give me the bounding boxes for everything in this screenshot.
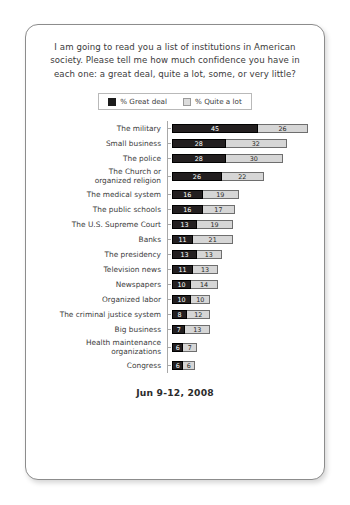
chart-row: The Church or organized religion2622: [32, 166, 324, 187]
axis-tick: [167, 158, 171, 159]
stacked-bar: 1010: [172, 295, 210, 305]
bar-segment-great-deal: 7: [172, 325, 185, 335]
bar-segment-quite-a-lot: 13: [185, 325, 210, 335]
chart-row: The medical system1619: [32, 187, 324, 202]
stacked-bar: 2830: [172, 154, 283, 164]
chart-row-label: The presidency: [32, 251, 167, 259]
chart-row-label: Organized labor: [32, 296, 167, 304]
stacked-bar: 67: [172, 343, 197, 353]
legend: % Great deal % Quite a lot: [98, 93, 252, 110]
chart-row-label: Health maintenance organizations: [32, 339, 167, 356]
chart-row: Newspapers1014: [32, 277, 324, 292]
stacked-bar: 66: [172, 361, 195, 371]
bar-segment-quite-a-lot: 7: [183, 343, 196, 353]
stacked-bar: 2622: [172, 172, 264, 182]
axis-tick: [167, 128, 171, 129]
bar-segment-great-deal: 26: [172, 172, 222, 182]
chart-row-label: Big business: [32, 326, 167, 334]
bar-segment-great-deal: 28: [172, 139, 226, 149]
axis-tick: [167, 254, 171, 255]
axis-tick: [167, 143, 171, 144]
chart-row: Organized labor1010: [32, 292, 324, 307]
stacked-bar: 4526: [172, 124, 308, 134]
chart-row-label: The public schools: [32, 206, 167, 214]
axis-tick: [167, 347, 171, 348]
axis-tick: [167, 176, 171, 177]
chart-row: Congress66: [32, 358, 324, 373]
chart-row-label: The U.S. Supreme Court: [32, 221, 167, 229]
axis-tick: [167, 284, 171, 285]
axis-tick: [167, 314, 171, 315]
bar-segment-great-deal: 16: [172, 190, 203, 200]
axis-tick: [167, 365, 171, 366]
bar-chart: The military4526Small business2832The po…: [26, 121, 324, 373]
axis-tick: [167, 329, 171, 330]
chart-row: The military4526: [32, 121, 324, 136]
legend-swatch-great-deal-icon: [108, 98, 116, 106]
bar-segment-great-deal: 11: [172, 265, 193, 275]
stacked-bar: 1113: [172, 265, 218, 275]
axis-tick: [167, 239, 171, 240]
page-title: I am going to read you a list of institu…: [42, 41, 308, 81]
bar-segment-quite-a-lot: 6: [183, 361, 194, 371]
bar-segment-quite-a-lot: 26: [258, 124, 308, 134]
legend-swatch-quite-a-lot-icon: [183, 98, 191, 106]
chart-row-label: The military: [32, 125, 167, 133]
chart-footer-date: Jun 9-12, 2008: [26, 387, 324, 398]
legend-label-great-deal: % Great deal: [120, 97, 167, 106]
chart-row-label: The medical system: [32, 191, 167, 199]
axis-tick: [167, 194, 171, 195]
bar-segment-great-deal: 28: [172, 154, 226, 164]
chart-row: Small business2832: [32, 136, 324, 151]
stacked-bar: 1619: [172, 190, 239, 200]
stacked-bar: 713: [172, 325, 210, 335]
stacked-bar: 1121: [172, 235, 233, 245]
bar-segment-quite-a-lot: 17: [203, 205, 236, 215]
bar-segment-quite-a-lot: 13: [197, 250, 222, 260]
bar-segment-quite-a-lot: 19: [203, 190, 239, 200]
chart-row: The U.S. Supreme Court1319: [32, 217, 324, 232]
chart-row-label: The police: [32, 155, 167, 163]
bar-segment-quite-a-lot: 12: [187, 310, 210, 320]
chart-row: The criminal justice system812: [32, 307, 324, 322]
bar-segment-great-deal: 45: [172, 124, 258, 134]
legend-item-great-deal: % Great deal: [108, 97, 167, 106]
bar-segment-quite-a-lot: 30: [226, 154, 283, 164]
bar-segment-great-deal: 10: [172, 295, 191, 305]
chart-row: The public schools1617: [32, 202, 324, 217]
legend-item-quite-a-lot: % Quite a lot: [183, 97, 242, 106]
chart-row: Big business713: [32, 322, 324, 337]
chart-row-label: Small business: [32, 140, 167, 148]
axis-tick: [167, 209, 171, 210]
chart-row: Banks1121: [32, 232, 324, 247]
bar-segment-great-deal: 13: [172, 250, 197, 260]
chart-row: Television news1113: [32, 262, 324, 277]
stacked-bar: 1617: [172, 205, 235, 215]
bar-segment-quite-a-lot: 19: [197, 220, 233, 230]
chart-row-label: The Church or organized religion: [32, 168, 167, 185]
chart-row-label: Newspapers: [32, 281, 167, 289]
axis-tick: [167, 224, 171, 225]
bar-segment-quite-a-lot: 14: [191, 280, 218, 290]
stacked-bar: 812: [172, 310, 210, 320]
bar-segment-great-deal: 6: [172, 361, 183, 371]
bar-segment-quite-a-lot: 21: [193, 235, 233, 245]
legend-label-quite-a-lot: % Quite a lot: [195, 97, 242, 106]
bar-segment-great-deal: 6: [172, 343, 183, 353]
chart-row-label: Television news: [32, 266, 167, 274]
stacked-bar: 1313: [172, 250, 222, 260]
legend-container: % Great deal % Quite a lot: [26, 93, 324, 110]
bar-segment-great-deal: 16: [172, 205, 203, 215]
chart-row-label: Congress: [32, 362, 167, 370]
axis-tick: [167, 269, 171, 270]
chart-row: The presidency1313: [32, 247, 324, 262]
bar-segment-great-deal: 10: [172, 280, 191, 290]
bar-segment-quite-a-lot: 32: [226, 139, 287, 149]
bar-segment-quite-a-lot: 10: [191, 295, 210, 305]
chart-row: Health maintenance organizations67: [32, 337, 324, 358]
bar-segment-great-deal: 8: [172, 310, 187, 320]
stacked-bar: 2832: [172, 139, 287, 149]
axis-tick: [167, 299, 171, 300]
bar-segment-great-deal: 13: [172, 220, 197, 230]
bar-segment-quite-a-lot: 22: [222, 172, 264, 182]
